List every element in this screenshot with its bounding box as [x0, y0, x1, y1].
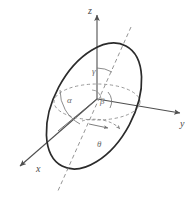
gamma-arc [97, 68, 112, 72]
x-axis-label: x [35, 163, 41, 174]
y-axis-label: y [179, 118, 185, 129]
alpha-label: α [67, 95, 72, 105]
gamma-label: γ [92, 66, 96, 76]
beta-label: β [99, 96, 105, 106]
beta-arc [108, 92, 112, 108]
theta-label: θ [97, 139, 102, 149]
figure-canvas: z y x α β γ θ [0, 0, 195, 207]
z-axis-label: z [87, 5, 92, 16]
in-plane-radius [58, 99, 97, 131]
normal-dashed-line [57, 27, 131, 193]
diagram-svg: z y x α β γ θ [0, 0, 195, 207]
theta-direction-arrow [89, 124, 108, 128]
